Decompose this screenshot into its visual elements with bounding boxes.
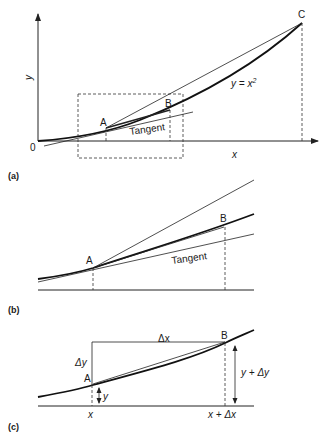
point-b-label: B (165, 98, 172, 109)
curve-label: y = x2 (230, 77, 256, 89)
x-plus-dx-label: x + Δx (207, 409, 237, 420)
tangent-line (38, 234, 254, 282)
tangent-label: Tangent (129, 121, 166, 137)
chord-ab (93, 342, 225, 384)
point-b-label: B (221, 330, 228, 341)
point-b-label: B (220, 213, 227, 224)
panel-a-label: (a) (8, 171, 19, 181)
parabola-curve (38, 23, 302, 141)
panel-b: A B Tangent (b) (8, 180, 254, 315)
y-axis-label: y (23, 74, 34, 81)
secant-ab (93, 227, 224, 268)
point-a-label: A (100, 117, 107, 128)
point-a-label: A (86, 255, 93, 266)
derivative-diagram: y 0 x A B C y = x2 Tangent (a) (0, 0, 326, 439)
x-axis-label: x (231, 149, 238, 160)
origin-label: 0 (30, 142, 36, 153)
delta-y-label: Δy (74, 357, 88, 368)
secant-ac (106, 23, 302, 128)
delta-x-label: Δx (158, 333, 170, 344)
panel-c-label: (c) (8, 422, 19, 432)
tangent-label: Tangent (171, 250, 208, 266)
panel-c: A B Δx Δy y y + Δy x x + Δx (c) (8, 330, 270, 432)
point-a-label: A (84, 373, 91, 384)
panel-b-label: (b) (8, 305, 20, 315)
y-label: y (102, 391, 109, 402)
panel-a: y 0 x A B C y = x2 Tangent (a) (8, 9, 318, 181)
y-plus-dy-label: y + Δy (240, 367, 270, 378)
point-c-label: C (298, 9, 305, 20)
x-label: x (87, 409, 94, 420)
